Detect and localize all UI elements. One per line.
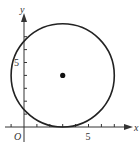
coordinate-figure: y x O 5 5: [0, 0, 140, 150]
x-tick-label-5: 5: [86, 131, 91, 142]
center-point: [60, 73, 65, 78]
y-axis-label: y: [19, 4, 25, 15]
x-axis-arrow-icon: [124, 124, 133, 130]
y-tick-label-5: 5: [14, 57, 19, 68]
origin-label: O: [14, 131, 21, 142]
x-axis-label: x: [133, 122, 139, 133]
